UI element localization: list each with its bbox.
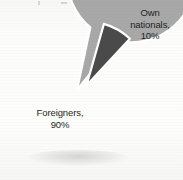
slice-label-own-nationals: Own nationals, 10% [118, 7, 182, 42]
slice-label-foreigners-line2: 90% [18, 119, 102, 131]
pie-chart-plot-area: Foreigners, 90% Own nationals, 10% [0, 0, 183, 180]
slice-label-own-nationals-line2: nationals, [118, 19, 182, 31]
pie-chart-figure: Foreigners, 90% Own nationals, 10% [0, 0, 183, 180]
slice-label-own-nationals-line1: Own [118, 7, 182, 19]
slice-label-foreigners: Foreigners, 90% [18, 107, 102, 130]
slice-label-foreigners-line1: Foreigners, [18, 107, 102, 119]
slice-label-own-nationals-line3: 10% [118, 30, 182, 42]
